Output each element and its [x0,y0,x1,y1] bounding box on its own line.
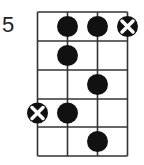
note-dot [57,16,78,37]
note-dot [57,103,78,124]
note-dot [57,45,78,66]
fretboard-diagram [0,0,144,165]
note-dot [87,16,108,37]
note-dot [87,131,108,152]
note-dot [87,74,108,95]
